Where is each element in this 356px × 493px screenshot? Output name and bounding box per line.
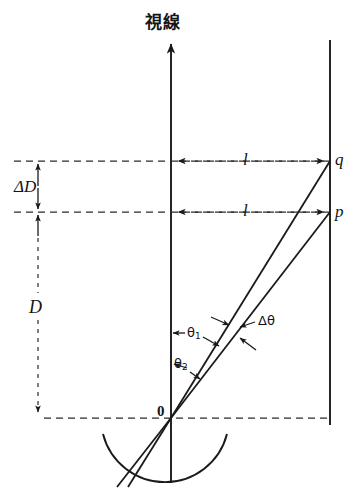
lens-arc xyxy=(103,434,227,482)
l-upper-label: l xyxy=(243,151,248,168)
ray-O-to-p xyxy=(171,212,330,418)
theta2-label: θ2 xyxy=(174,357,188,370)
point-q-label: q xyxy=(335,151,344,168)
theta1-label: θ1 xyxy=(187,326,201,339)
ray-extension-p xyxy=(117,418,171,487)
point-p-label: p xyxy=(335,203,344,220)
theta2-symbol: θ xyxy=(174,356,182,371)
origin-label: 0 xyxy=(157,404,165,419)
delta-D-label: ΔD xyxy=(14,178,36,195)
ray-O-to-q xyxy=(171,161,330,418)
rays-group xyxy=(117,161,330,487)
theta1-subscript: 1 xyxy=(195,331,201,341)
diagram-canvas xyxy=(0,0,356,493)
l-lower-label: l xyxy=(243,202,248,219)
sight-line-title: 視線 xyxy=(145,14,181,31)
theta1-arrow-right xyxy=(203,337,219,346)
ray-extension-q xyxy=(128,418,171,487)
D-label: D xyxy=(29,298,42,316)
delta-theta-arrow-in-lower xyxy=(240,338,256,350)
optics-diagram: 視線 ΔD D l l q p 0 θ1 θ2 Δθ xyxy=(0,0,356,493)
delta-theta-arrow-in-upper xyxy=(211,317,229,325)
theta2-subscript: 2 xyxy=(182,362,188,372)
theta1-symbol: θ xyxy=(187,325,195,340)
delta-theta-label: Δθ xyxy=(258,314,275,327)
